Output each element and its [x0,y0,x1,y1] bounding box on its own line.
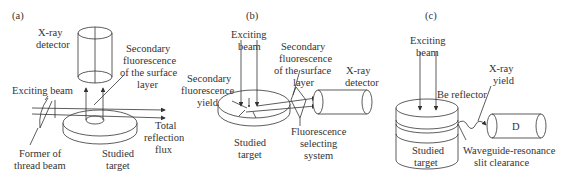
label-fluorescence-selecting-2: selecting [300,138,338,149]
label-secondary-fluorescence-2: fluorescence [123,55,176,66]
label-secondary-fluorescence-b-2: fluorescence [279,53,332,64]
label-secondary-fluorescence: Secondary [126,43,171,54]
diagram-svg: (a) X-ray detector [0,0,563,184]
label-be-reflector: Be reflector [437,89,487,100]
label-fluorescence-selecting: Fluorescence [291,126,347,137]
label-secondary-fluorescence-3: of the surface [120,67,177,78]
panel-c: (c) D Exciting beam X-ray yield Be [396,10,556,169]
xray-detector-cylinder-icon-b [313,90,372,114]
label-secondary-fluorescence-b-4: layer [293,77,314,88]
label-exciting-beam-b-2: beam [238,41,261,52]
diagram-root: (a) X-ray detector [0,0,563,184]
label-exciting-beam-b: Exciting [231,29,267,40]
label-exciting-beam: Exciting beam [12,85,73,96]
label-waveguide-resonance: Waveguide-resonance [463,145,556,156]
label-xray-detector-2: detector [36,39,70,50]
label-studied-target: Studied [102,148,135,159]
label-secondary-yield: Secondary [187,73,232,84]
label-studied-target-b-2: target [238,149,262,160]
label-xray-detector: X-ray [38,27,63,38]
label-former-thread-beam: Former of [19,148,62,159]
label-secondary-fluorescence-b-3: of the surface [274,65,331,76]
label-xray-yield-2: yield [493,75,515,86]
label-xray-yield: X-ray [489,63,514,74]
panel-c-tag: (c) [425,10,437,22]
label-secondary-yield-3: yield [197,97,219,108]
label-studied-target-c-2: target [414,157,438,168]
panel-a: (a) X-ray detector [12,10,185,171]
panel-b-tag: (b) [246,10,259,22]
label-studied-target-b: Studied [234,137,267,148]
panel-b: (b) Exciting beam [181,10,379,161]
label-fluorescence-selecting-3: system [304,150,333,161]
label-total-reflection: Total [155,120,177,131]
label-exciting-beam-c-2: beam [416,47,439,58]
label-xray-detector-b: X-ray [346,65,371,76]
label-former-thread-beam-2: thread beam [14,160,66,171]
label-detector-d: D [512,121,520,132]
label-total-reflection-2: reflection [144,132,185,143]
label-studied-target-c: Studied [412,145,445,156]
label-waveguide-resonance-2: slit clearance [474,157,529,168]
label-exciting-beam-c: Exciting [410,35,446,46]
xray-detector-cylinder-icon [78,27,112,83]
label-secondary-fluorescence-4: layer [137,79,158,90]
label-total-reflection-3: flux [155,144,173,155]
label-secondary-fluorescence-b: Secondary [281,41,326,52]
label-studied-target-2: target [106,160,130,171]
label-secondary-yield-2: fluorescence [181,85,234,96]
panel-a-tag: (a) [12,10,24,22]
label-xray-detector-b-2: detector [345,77,379,88]
